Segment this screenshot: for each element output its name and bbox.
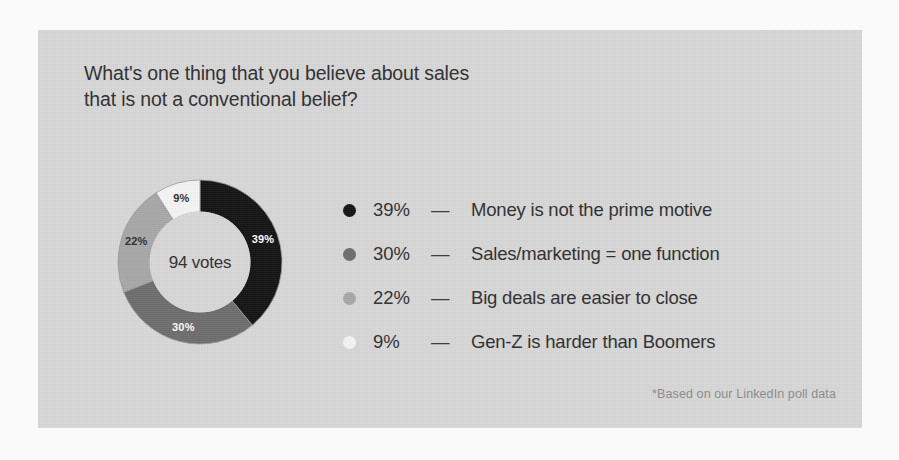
- donut-center-label: 94 votes: [169, 253, 232, 272]
- donut-slice-label: 9%: [173, 192, 189, 204]
- legend-dash: —: [431, 199, 471, 221]
- donut-slice-label: 22%: [125, 235, 148, 247]
- poll-result-card: What's one thing that you believe about …: [38, 30, 862, 428]
- chart-legend: 39% — Money is not the prime motive 30% …: [343, 188, 843, 364]
- legend-label: Sales/marketing = one function: [471, 243, 720, 265]
- page-title: What's one thing that you believe about …: [84, 60, 604, 112]
- donut-slice-label: 39%: [252, 233, 275, 245]
- source-footnote: *Based on our LinkedIn poll data: [652, 387, 836, 401]
- legend-bullet-icon: [343, 336, 356, 349]
- legend-bullet-icon: [343, 248, 356, 261]
- legend-label: Money is not the prime motive: [471, 199, 712, 221]
- legend-dash: —: [431, 287, 471, 309]
- donut-slice-label: 30%: [172, 321, 195, 333]
- donut-chart: 94 votes 39%30%22%9%: [50, 112, 350, 412]
- legend-item-30[interactable]: 30% — Sales/marketing = one function: [343, 232, 843, 276]
- legend-dash: —: [431, 331, 471, 353]
- donut-chart-svg: 94 votes 39%30%22%9%: [50, 112, 350, 412]
- legend-percent: 39%: [373, 199, 431, 221]
- legend-dash: —: [431, 243, 471, 265]
- legend-item-39[interactable]: 39% — Money is not the prime motive: [343, 188, 843, 232]
- legend-item-9[interactable]: 9% — Gen-Z is harder than Boomers: [343, 320, 843, 364]
- legend-bullet-icon: [343, 292, 356, 305]
- legend-percent: 9%: [373, 331, 431, 353]
- legend-item-22[interactable]: 22% — Big deals are easier to close: [343, 276, 843, 320]
- legend-bullet-icon: [343, 204, 356, 217]
- legend-label: Big deals are easier to close: [471, 287, 698, 309]
- legend-label: Gen-Z is harder than Boomers: [471, 331, 715, 353]
- legend-percent: 30%: [373, 243, 431, 265]
- legend-percent: 22%: [373, 287, 431, 309]
